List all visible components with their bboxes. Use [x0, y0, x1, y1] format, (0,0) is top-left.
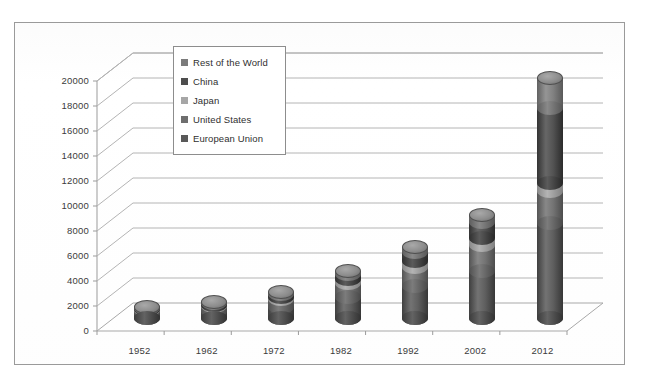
- legend-item-european-union[interactable]: European Union: [181, 129, 277, 148]
- y-axis-tick-label: 14000: [43, 150, 89, 161]
- bar-base-cap-2012: [537, 311, 563, 325]
- y-axis-tick-label: 2000: [43, 300, 89, 311]
- legend-item-rest-of-the-world[interactable]: Rest of the World: [181, 53, 277, 72]
- bar-segment-2012-european-union[interactable]: [537, 223, 563, 318]
- y-axis-tick-label: 16000: [43, 125, 89, 136]
- bar-top-cap-2002: [469, 208, 495, 222]
- legend-swatch-icon: [181, 135, 188, 142]
- bar-1992[interactable]: [402, 23, 428, 366]
- legend-item-label: Japan: [193, 95, 219, 106]
- bar-1982[interactable]: [335, 23, 361, 366]
- y-axis-tick-label: 20000: [43, 75, 89, 86]
- y-axis-tick-label: 6000: [43, 250, 89, 261]
- bar-1952[interactable]: [134, 23, 160, 366]
- legend-item-japan[interactable]: Japan: [181, 91, 277, 110]
- bar-2002[interactable]: [469, 23, 495, 366]
- bar-top-cap-1982: [335, 264, 361, 278]
- bar-base-cap-1962: [201, 311, 227, 325]
- bar-base-cap-1952: [134, 311, 160, 325]
- chart-legend[interactable]: Rest of the WorldChinaJapanUnited States…: [173, 46, 286, 155]
- legend-item-united-states[interactable]: United States: [181, 110, 277, 129]
- legend-item-label: European Union: [193, 133, 263, 144]
- bar-segment-2012-china[interactable]: [537, 108, 563, 183]
- legend-item-label: United States: [193, 114, 251, 125]
- legend-swatch-icon: [181, 97, 188, 104]
- y-axis-tick-label: 18000: [43, 100, 89, 111]
- chart-frame: 2000018000160001400012000100008000600040…: [14, 22, 625, 365]
- legend-swatch-icon: [181, 59, 188, 66]
- plot-area: 2000018000160001400012000100008000600040…: [15, 23, 626, 366]
- bar-base-cap-1982: [335, 311, 361, 325]
- y-axis-tick-label: 12000: [43, 175, 89, 186]
- bar-top-cap-1962: [201, 295, 227, 309]
- y-axis-tick-label: 8000: [43, 225, 89, 236]
- bar-base-cap-1992: [402, 311, 428, 325]
- legend-swatch-icon: [181, 78, 188, 85]
- chart-canvas: [15, 23, 626, 366]
- y-axis-tick-label: 4000: [43, 275, 89, 286]
- y-axis-tick-label: 0: [43, 325, 89, 336]
- legend-swatch-icon: [181, 116, 188, 123]
- legend-item-china[interactable]: China: [181, 72, 277, 91]
- bar-base-cap-1972: [268, 311, 294, 325]
- bar-base-cap-2002: [469, 311, 495, 325]
- bar-2012[interactable]: [537, 23, 563, 366]
- legend-item-label: Rest of the World: [193, 57, 268, 68]
- bar-segment-seam: [402, 279, 428, 293]
- y-axis-tick-label: 10000: [43, 200, 89, 211]
- legend-item-label: China: [193, 76, 218, 87]
